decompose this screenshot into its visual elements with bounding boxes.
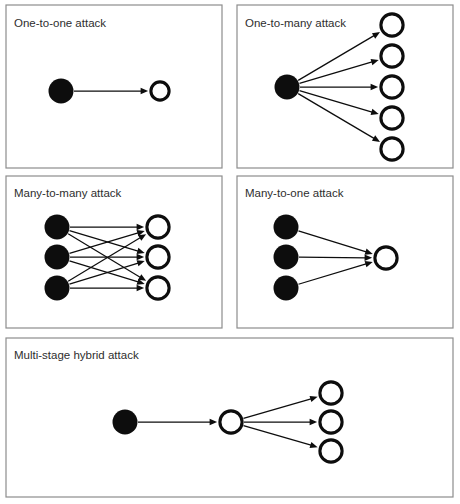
attacker-node bbox=[274, 276, 299, 301]
panel-multi-stage-hybrid-label: Multi-stage hybrid attack bbox=[14, 349, 139, 361]
victim-node bbox=[381, 107, 403, 129]
attacker-node bbox=[274, 245, 299, 270]
victim-node bbox=[381, 45, 403, 67]
victim-node bbox=[147, 277, 169, 299]
attacker-node bbox=[45, 215, 70, 240]
victim-node bbox=[320, 411, 342, 433]
panel-many-to-one-label: Many-to-one attack bbox=[245, 187, 344, 199]
victim-node bbox=[381, 14, 403, 36]
panel-one-to-one-border bbox=[6, 5, 222, 168]
attack-edge bbox=[299, 257, 366, 258]
panel-many-to-one: Many-to-one attack bbox=[237, 176, 453, 328]
victim-node bbox=[320, 440, 342, 462]
victim-node bbox=[381, 138, 403, 160]
attack-topology-figure: One-to-one attackOne-to-many attackMany-… bbox=[0, 0, 460, 504]
panel-multi-stage-hybrid: Multi-stage hybrid attack bbox=[6, 338, 453, 497]
victim-node bbox=[381, 76, 403, 98]
attacker-node bbox=[275, 75, 300, 100]
attacker-node bbox=[274, 215, 299, 240]
panel-one-to-one-label: One-to-one attack bbox=[14, 17, 106, 29]
panel-one-to-many: One-to-many attack bbox=[237, 5, 453, 168]
panel-many-to-many: Many-to-many attack bbox=[6, 176, 222, 328]
attacker-node bbox=[113, 410, 138, 435]
victim-node bbox=[151, 82, 169, 100]
victim-node bbox=[147, 216, 169, 238]
panel-one-to-one: One-to-one attack bbox=[6, 5, 222, 168]
attacker-node bbox=[49, 79, 74, 104]
relay-node bbox=[220, 411, 242, 433]
victim-node bbox=[147, 246, 169, 268]
panel-one-to-many-label: One-to-many attack bbox=[245, 17, 346, 29]
attacker-node bbox=[45, 245, 70, 270]
attacker-node bbox=[45, 276, 70, 301]
victim-node bbox=[320, 382, 342, 404]
victim-node bbox=[375, 247, 397, 269]
panel-many-to-many-label: Many-to-many attack bbox=[14, 187, 122, 199]
